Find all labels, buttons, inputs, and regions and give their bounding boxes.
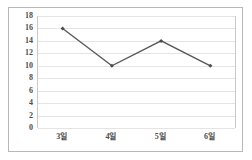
y-tick-label: 2 (29, 112, 33, 120)
y-tick-label: 0 (29, 124, 33, 132)
y-tick-label: 18 (25, 12, 33, 20)
y-tick-label: 12 (25, 49, 33, 57)
x-tick-label: 3일 (56, 132, 67, 142)
series-line (63, 28, 211, 65)
y-tick-label: 8 (29, 74, 33, 82)
y-axis: 181614121086420 (9, 16, 36, 128)
x-tick-label: 5일 (155, 132, 166, 142)
gridline (38, 128, 235, 129)
y-tick-label: 14 (25, 37, 33, 45)
x-tick-label: 6일 (204, 132, 215, 142)
y-tick-label: 4 (29, 99, 33, 107)
y-tick-label: 16 (25, 24, 33, 32)
y-tick-label: 6 (29, 87, 33, 95)
chart-canvas: 181614121086420 3일4일5일6일 (9, 8, 242, 151)
y-tick-label: 10 (25, 62, 33, 70)
chart-frame: 181614121086420 3일4일5일6일 (8, 7, 243, 152)
plot-area (37, 16, 236, 128)
x-axis: 3일4일5일6일 (37, 132, 234, 148)
line-series (38, 16, 235, 128)
x-tick-label: 4일 (105, 132, 116, 142)
